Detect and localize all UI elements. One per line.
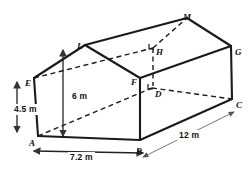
hidden-edge-D-C <box>152 88 232 99</box>
vertex-B-label: B <box>136 147 142 156</box>
dimension-lines-group <box>17 50 234 157</box>
edge-L-M <box>85 18 187 45</box>
hidden-edge-E-H <box>34 48 153 78</box>
vertex-G-label: G <box>235 48 242 57</box>
dim-height-wall-label: 4.5 m <box>12 104 39 115</box>
vertex-M-label: M <box>183 13 191 22</box>
dim-height-apex-label: 6 m <box>70 91 89 102</box>
edge-G-C <box>231 46 232 99</box>
vertex-F-label: F <box>131 78 137 87</box>
dim-depth-label: 12 m <box>177 130 201 141</box>
vertex-H-label: H <box>156 48 163 57</box>
dim-width-label: 7.2 m <box>68 152 95 163</box>
vertex-A-label: A <box>29 139 35 148</box>
geometry-figure: ABCDEFGHLM 4.5 m6 m7.2 m12 m <box>0 0 251 171</box>
hidden-edge-A-D <box>38 88 152 136</box>
edge-A-B <box>38 136 140 140</box>
geometry-canvas <box>0 0 251 171</box>
vertex-L-label: L <box>77 42 83 51</box>
vertex-D-label: D <box>155 90 162 99</box>
vertex-C-label: C <box>236 101 242 110</box>
edge-L-F <box>85 45 140 78</box>
edge-M-G <box>187 18 231 46</box>
vertex-E-label: E <box>25 79 31 88</box>
